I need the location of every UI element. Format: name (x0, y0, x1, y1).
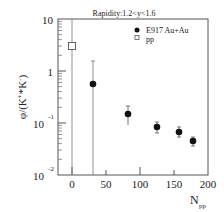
data-point (125, 111, 132, 118)
y-tick-10: 10 (42, 14, 54, 26)
series-auau (90, 61, 197, 175)
data-point (176, 129, 183, 136)
data-point (154, 124, 161, 131)
x-axis-label-main: N (190, 193, 199, 207)
x-tick-200: 200 (200, 178, 217, 190)
legend-label-pp: pp (146, 35, 154, 44)
x-axis-label-sub: pp (199, 202, 207, 210)
x-tick-150: 150 (166, 178, 183, 190)
plot-frame (58, 19, 208, 175)
y-tick-0.1-exp: -1 (48, 113, 54, 121)
x-ticks (72, 167, 174, 175)
data-point (90, 81, 97, 88)
x-tick-0: 0 (69, 178, 75, 190)
legend: E917 Au+Au pp (135, 26, 189, 44)
x-tick-labels: 0 50 100 150 200 (69, 178, 217, 190)
data-point-pp (69, 43, 76, 50)
legend-marker-auau (135, 28, 140, 33)
svg-text:φ/(K+*K-): φ/(K+*K-) (16, 74, 29, 119)
legend-label-auau: E917 Au+Au (146, 26, 189, 35)
legend-marker-pp (135, 36, 139, 40)
x-axis-label: N pp (190, 193, 207, 210)
y-tick-0.01-exp: -2 (48, 165, 54, 173)
x-tick-100: 100 (132, 178, 149, 190)
y-tick-1: 1 (48, 66, 54, 78)
y-axis-label: φ/(K+*K-) (16, 74, 29, 119)
y-minor-ticks (58, 21, 62, 159)
chart-canvas: 10 1 10 -1 10 -2 0 50 100 150 200 N pp φ… (0, 0, 224, 212)
x-tick-50: 50 (101, 178, 113, 190)
data-point (190, 138, 197, 145)
y-tick-0.1: 10 (33, 118, 45, 130)
y-tick-0.01: 10 (33, 170, 45, 182)
chart-title: Rapidity:1.2<y<1.6 (93, 9, 156, 18)
series-pp (69, 19, 76, 175)
y-tick-labels: 10 1 10 -1 10 -2 (33, 14, 54, 182)
